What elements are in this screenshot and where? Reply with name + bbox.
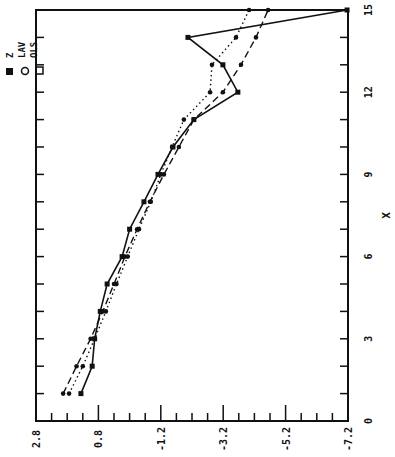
data-point	[61, 391, 66, 396]
data-point	[105, 282, 110, 287]
data-point	[177, 145, 182, 150]
y-tick-label: 0.8	[93, 430, 104, 448]
data-point	[104, 309, 109, 314]
data-point	[81, 364, 86, 369]
data-point	[149, 200, 154, 205]
data-point	[182, 117, 187, 122]
series-line-z	[81, 10, 347, 394]
data-point	[137, 227, 142, 232]
data-point	[125, 254, 130, 259]
y-tick-label: -7.2	[343, 427, 354, 451]
plot-frame	[36, 10, 348, 421]
y-tick-label: 2.8	[31, 430, 42, 448]
data-point	[234, 35, 239, 40]
data-point	[114, 282, 119, 287]
y-tick-label: -3.2	[218, 427, 229, 451]
data-point	[235, 90, 240, 95]
rotated-line-chart: 2.80.8-1.2-3.2-5.2-7.203691215X ZLAVOLS	[0, 0, 395, 457]
data-point	[67, 391, 72, 396]
data-point	[221, 90, 226, 95]
series-group	[61, 8, 350, 397]
data-point	[192, 117, 197, 122]
x-tick-label: 15	[363, 4, 374, 16]
data-point	[74, 364, 79, 369]
legend-open-square-icon	[36, 67, 43, 74]
y-tick-label: -5.2	[281, 427, 292, 451]
x-tick-label: 3	[363, 336, 374, 342]
legend-label-lav: LAV	[17, 41, 27, 58]
data-point	[247, 8, 252, 13]
x-tick-label: 6	[363, 254, 374, 260]
data-point	[266, 8, 271, 13]
legend: ZLAVOLS	[5, 41, 43, 75]
legend-filled-square-icon	[6, 68, 13, 75]
legend-circle-icon	[22, 68, 29, 75]
x-tick-label: 12	[363, 86, 374, 98]
series-line-ols	[69, 10, 249, 394]
legend-label-ols: OLS	[29, 42, 39, 58]
data-point	[92, 337, 97, 342]
y-tick-label: -1.2	[156, 427, 167, 451]
data-point	[88, 337, 93, 342]
data-point	[90, 364, 95, 369]
data-point	[208, 90, 213, 95]
data-point	[239, 63, 244, 68]
data-point	[170, 145, 175, 150]
data-point	[345, 8, 350, 13]
data-point	[141, 199, 146, 204]
x-tick-label: 9	[363, 171, 374, 177]
data-point	[127, 227, 132, 232]
series-line-lav	[63, 10, 268, 394]
data-point	[78, 391, 83, 396]
x-tick-label: 0	[363, 418, 374, 424]
legend-label-z: Z	[5, 52, 15, 58]
data-point	[159, 172, 164, 177]
data-point	[220, 62, 225, 67]
x-axis-title: X	[380, 212, 393, 219]
data-point	[210, 63, 215, 68]
data-point	[185, 35, 190, 40]
data-point	[254, 35, 259, 40]
